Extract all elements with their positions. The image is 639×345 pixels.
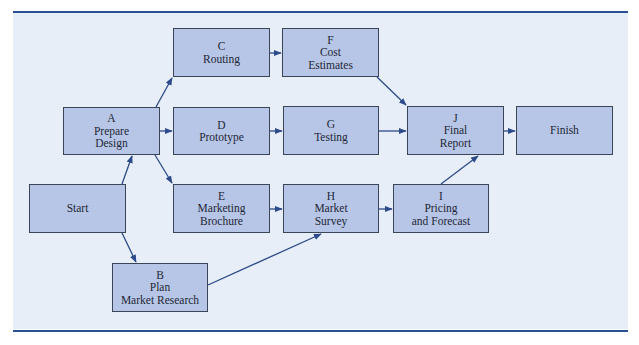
node-letter: E xyxy=(218,190,225,203)
node-label: Pricing xyxy=(424,202,457,215)
node-label: Testing xyxy=(314,131,348,144)
node-f: FCostEstimates xyxy=(282,28,379,77)
node-g: GTesting xyxy=(283,106,379,155)
node-letter: C xyxy=(218,40,226,53)
node-label: and Forecast xyxy=(412,215,470,228)
node-letter: G xyxy=(327,118,335,131)
node-start: Start xyxy=(29,184,126,233)
node-label: Design xyxy=(95,137,128,150)
node-letter: J xyxy=(453,112,457,125)
node-j: JFinalReport xyxy=(407,106,504,155)
node-label: Cost xyxy=(320,46,341,59)
node-letter: I xyxy=(439,190,443,203)
node-label: Marketing xyxy=(198,202,246,215)
node-label: Plan xyxy=(150,281,170,294)
node-h: HMarketSurvey xyxy=(283,184,379,233)
node-label: Prepare xyxy=(94,125,129,138)
bottom-rule xyxy=(13,330,628,332)
node-label: Survey xyxy=(315,215,348,228)
node-label: Prototype xyxy=(199,131,244,144)
node-b: BPlanMarket Research xyxy=(112,263,208,312)
node-label: Brochure xyxy=(200,215,243,228)
node-label: Finish xyxy=(550,124,579,137)
node-c: CRouting xyxy=(173,28,270,77)
node-label: Routing xyxy=(203,53,240,66)
node-letter: F xyxy=(327,34,333,47)
node-a: APrepareDesign xyxy=(63,107,160,155)
node-letter: H xyxy=(327,190,335,203)
node-finish: Finish xyxy=(516,106,613,155)
node-label: Final xyxy=(444,124,468,137)
node-i: IPricingand Forecast xyxy=(393,184,489,233)
node-letter: B xyxy=(156,269,164,282)
node-label: Market xyxy=(314,202,347,215)
node-letter: D xyxy=(217,119,225,132)
node-label: Market Research xyxy=(121,294,199,307)
node-label: Report xyxy=(440,137,471,150)
node-letter: A xyxy=(107,112,115,125)
node-label: Estimates xyxy=(308,59,353,72)
node-d: DPrototype xyxy=(173,107,270,155)
node-label: Start xyxy=(67,202,89,215)
node-e: EMarketingBrochure xyxy=(173,184,270,233)
